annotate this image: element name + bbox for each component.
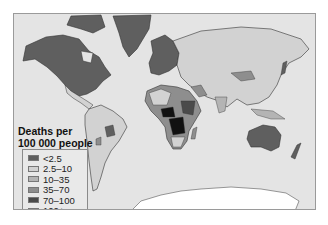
- legend-swatch: [28, 187, 39, 193]
- legend-label: 100+: [43, 205, 64, 210]
- region-antarctica: [131, 187, 299, 210]
- legend-label: 35–70: [43, 184, 69, 195]
- world-map-frame: Deaths per 100 000 people <2.5 2.5–10 10…: [13, 13, 316, 210]
- legend-swatch: [28, 166, 39, 172]
- region-east-africa: [181, 101, 195, 115]
- legend-item: 100+: [28, 206, 87, 211]
- legend-swatch: [28, 155, 39, 161]
- region-west-africa-dark: [161, 107, 175, 117]
- legend-item: 70–100: [28, 195, 87, 206]
- legend-item: 35–70: [28, 185, 87, 196]
- region-new-zealand: [291, 143, 301, 159]
- legend-label: 2.5–10: [43, 163, 72, 174]
- legend-swatch: [28, 197, 39, 203]
- legend-label: 70–100: [43, 195, 75, 206]
- region-asia: [173, 27, 309, 107]
- region-india: [215, 97, 227, 113]
- region-madagascar: [191, 127, 197, 139]
- legend-label: 10–35: [43, 174, 69, 185]
- legend-title-line1: Deaths per: [18, 125, 118, 137]
- region-arctic-islands: [67, 15, 105, 33]
- legend-swatch: [28, 208, 39, 210]
- region-greenland: [113, 15, 151, 57]
- legend-title-line2: 100 000 people: [18, 137, 118, 149]
- legend-swatch: [28, 176, 39, 182]
- legend-item: 10–35: [28, 174, 87, 185]
- legend-item: 2.5–10: [28, 164, 87, 175]
- legend-title: Deaths per 100 000 people: [18, 125, 118, 149]
- legend-label: <2.5: [43, 153, 62, 164]
- region-se-asia-islands: [251, 109, 285, 119]
- legend-item: <2.5: [28, 153, 87, 164]
- region-hudson-bay: [81, 51, 93, 63]
- region-australia: [247, 125, 281, 151]
- legend: <2.5 2.5–10 10–35 35–70 70–100 100+: [22, 149, 88, 210]
